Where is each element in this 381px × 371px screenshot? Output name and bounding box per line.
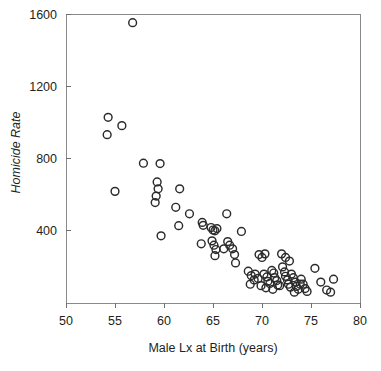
data-point <box>197 240 205 248</box>
x-tick-label-55: 55 <box>108 314 122 328</box>
x-tick-label-75: 75 <box>304 314 318 328</box>
data-point <box>257 282 265 290</box>
data-point <box>129 19 137 27</box>
axis-tick-labels: 5055606570758040080012001600 <box>29 8 367 329</box>
data-point <box>238 228 246 236</box>
x-tick-label-70: 70 <box>255 314 269 328</box>
data-point <box>220 245 228 253</box>
y-tick-label-1200: 1200 <box>29 80 57 94</box>
data-point <box>175 222 183 230</box>
data-point <box>172 203 180 211</box>
y-axis-title: Homicide Rate <box>9 111 23 193</box>
data-points-group <box>103 19 337 296</box>
x-tick-label-80: 80 <box>353 314 367 328</box>
x-tick-label-60: 60 <box>157 314 171 328</box>
data-point <box>104 113 112 121</box>
y-tick-label-800: 800 <box>36 152 57 166</box>
data-point <box>232 259 240 267</box>
scatter-chart-figure: 5055606570758040080012001600 Male Lx at … <box>0 0 381 371</box>
data-point <box>118 122 126 130</box>
data-point <box>103 131 111 139</box>
y-tick-label-1600: 1600 <box>29 8 57 22</box>
data-point <box>223 210 231 218</box>
data-point <box>140 159 148 167</box>
data-point <box>279 263 287 271</box>
y-tick-label-400: 400 <box>36 224 57 238</box>
data-point <box>111 187 119 195</box>
x-axis-title: Male Lx at Birth (years) <box>148 341 277 355</box>
plot-canvas: 5055606570758040080012001600 Male Lx at … <box>0 0 381 371</box>
data-point <box>176 185 184 193</box>
data-point <box>157 232 165 240</box>
data-point <box>330 275 338 283</box>
data-point <box>317 278 325 286</box>
data-point <box>156 160 164 168</box>
x-tick-label-50: 50 <box>59 314 73 328</box>
x-tick-label-65: 65 <box>206 314 220 328</box>
data-point <box>186 210 194 218</box>
data-point <box>311 264 319 272</box>
